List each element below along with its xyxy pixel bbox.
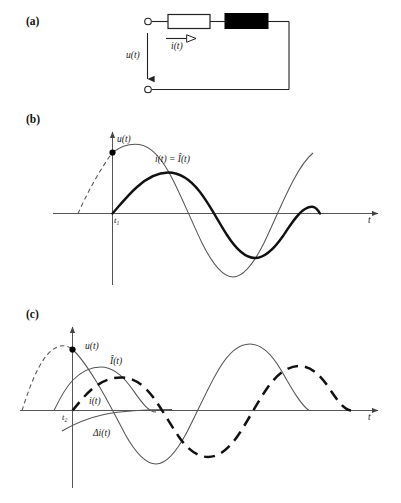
bottom-terminal-icon (145, 86, 152, 93)
plot-c-transient-curve (62, 410, 172, 432)
plot-c-origin-tick-label: t₂ (62, 412, 67, 422)
plot-b (53, 132, 378, 285)
plot-b-current-label: i(t) = Î(t) (155, 154, 190, 164)
plot-c (20, 327, 378, 488)
plot-c-x-axis-label: t (368, 412, 371, 422)
nonlinear-element-symbol (225, 14, 268, 29)
figure-svg (0, 0, 401, 503)
plot-c-voltage-prehistory (22, 346, 73, 411)
plot-b-x-axis-label: t (368, 215, 371, 225)
plot-b-switching-dot (109, 149, 115, 155)
plot-b-voltage-prehistory (78, 153, 113, 214)
plot-c-voltage-curve (73, 344, 310, 464)
figure-container: (a) (b) (c) (0, 0, 401, 503)
plot-c-transient-label: Δi(t) (93, 428, 110, 438)
plot-b-current-curve (113, 173, 321, 259)
plot-c-total-current-label: i(t) (89, 396, 101, 406)
circuit-diagram (145, 14, 289, 93)
plot-c-steady-current-label: Î(t) (110, 356, 122, 366)
top-terminal-icon (145, 18, 152, 25)
plot-c-voltage-label: u(t) (85, 341, 99, 351)
plot-c-steady-current-curve (54, 367, 156, 412)
plot-b-origin-tick-label: t₁ (114, 215, 119, 225)
circuit-current-label: i(t) (171, 41, 183, 51)
plot-c-total-current-curve (73, 366, 352, 457)
plot-b-voltage-label: u(t) (117, 134, 131, 144)
circuit-voltage-label: u(t) (126, 50, 140, 60)
plot-c-switching-dot (69, 346, 75, 352)
resistor-symbol (168, 15, 210, 29)
